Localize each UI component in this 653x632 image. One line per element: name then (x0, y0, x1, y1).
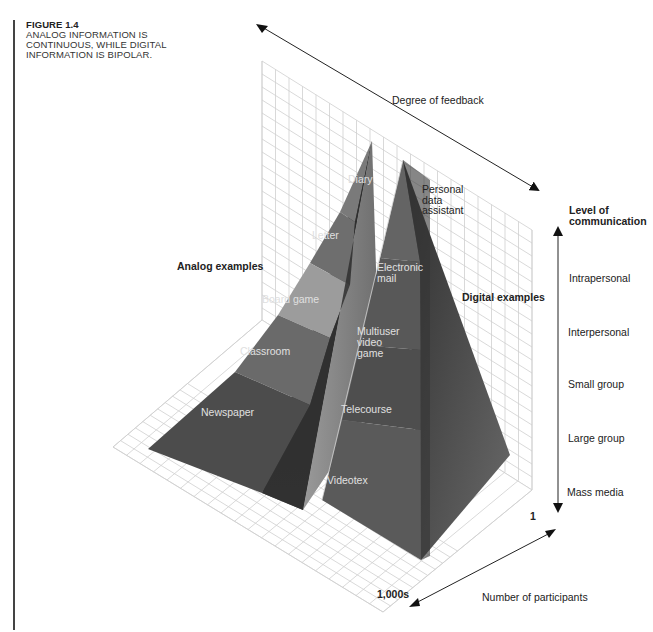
digital-examples-title: Digital examples (462, 291, 545, 303)
analog-item-newspaper: Newspaper (201, 407, 254, 418)
pyramid-diagram (0, 0, 653, 632)
video-line: game (357, 348, 400, 359)
pda-line: assistant (422, 205, 463, 216)
participants-min-label: 1 (530, 510, 536, 522)
participants-max-label: 1,000s (377, 588, 409, 600)
digital-item-video-game: Multiuser video game (357, 326, 400, 359)
level-title-line: communication (569, 216, 647, 227)
participants-axis-label: Number of participants (482, 591, 588, 603)
level-interpersonal: Interpersonal (568, 326, 629, 338)
level-axis-title: Level of communication (569, 205, 647, 227)
level-mass-media: Mass media (567, 486, 624, 498)
level-large-group: Large group (568, 432, 625, 444)
participants-arrow-head-start (409, 598, 420, 607)
pda-line: Personal (422, 184, 463, 195)
digital-item-email: Electronic mail (377, 262, 423, 284)
analog-item-classroom: Classroom (240, 346, 290, 357)
feedback-arrow-head-start (256, 24, 268, 33)
analog-item-board-game: Board game (262, 294, 319, 305)
participants-arrow-head-end (545, 529, 556, 538)
digital-item-pda: Personal data assistant (422, 184, 463, 216)
level-arrow-head-down (553, 503, 563, 513)
feedback-axis-label: Degree of feedback (392, 94, 484, 106)
analog-item-letter: Letter (312, 230, 339, 241)
email-line: mail (377, 273, 423, 284)
level-arrow-head-up (553, 226, 563, 236)
analog-examples-title: Analog examples (177, 260, 263, 272)
digital-item-telecourse: Telecourse (341, 404, 392, 415)
analog-item-diary: Diary (348, 174, 373, 185)
level-intrapersonal: Intrapersonal (569, 272, 630, 284)
level-small-group: Small group (568, 378, 624, 390)
digital-item-videotex: Videotex (327, 475, 368, 486)
